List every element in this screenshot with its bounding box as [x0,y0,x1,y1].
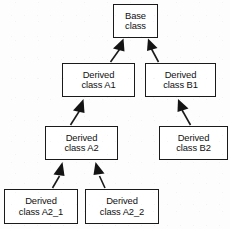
edge-a2-to-a1 [71,99,85,125]
class-box-base[interactable]: Base class [113,4,158,38]
edge-b1-to-base [147,39,159,63]
class-box-derived-b1[interactable]: Derived class B1 [145,63,216,97]
class-box-derived-a2[interactable]: Derived class A2 [45,126,118,160]
class-box-derived-a2-1-line2: class A2_1 [19,207,63,217]
class-box-derived-a1[interactable]: Derived class A1 [62,63,135,97]
edge-a1-to-base [111,39,125,63]
class-box-derived-b2-line2: class B2 [176,143,211,153]
class-box-derived-a2-2[interactable]: Derived class A2_2 [85,189,159,224]
class-box-derived-a2-line2: class A2 [64,143,98,153]
class-box-derived-a2-2-line1: Derived [106,196,138,206]
edge-b2-to-b1 [178,99,191,125]
class-box-derived-a2-1[interactable]: Derived class A2_1 [4,189,78,224]
class-box-derived-b1-line2: class B1 [163,80,198,90]
class-box-derived-b2[interactable]: Derived class B2 [159,126,228,160]
class-hierarchy-diagram: Base class Derived class A1 Derived clas… [0,0,230,229]
class-box-derived-a2-2-line2: class A2_2 [100,207,144,217]
class-box-derived-a2-1-line1: Derived [25,196,57,206]
class-box-derived-a1-line2: class A1 [81,80,115,90]
class-box-base-line2: class [125,21,146,31]
edge-a2_1-to-a2 [53,162,65,188]
edge-a2_2-to-a2 [94,162,106,188]
